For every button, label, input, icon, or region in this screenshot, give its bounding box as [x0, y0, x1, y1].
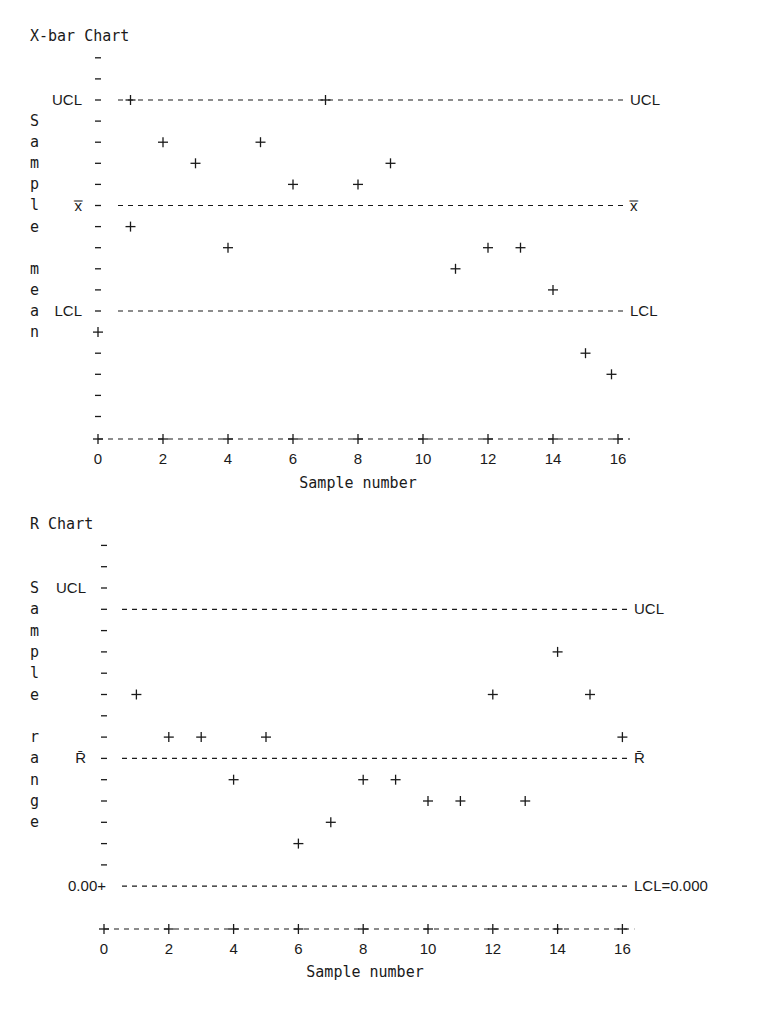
data-point	[293, 839, 303, 849]
svg-text:n: n	[30, 323, 39, 341]
svg-text:r: r	[30, 728, 39, 746]
right-label-lcl: LCL	[630, 302, 658, 319]
right-label-ucl: UCL	[630, 91, 660, 108]
left-label-ucl: UCL	[52, 91, 82, 108]
data-point	[196, 732, 206, 742]
data-point	[321, 95, 331, 105]
data-point	[358, 775, 368, 785]
r-x-axis-label: Sample number	[306, 963, 423, 981]
x-axis-tick	[353, 434, 363, 444]
right-label-center: x̿	[629, 197, 639, 214]
x-axis-tick	[617, 924, 627, 934]
xbar-y-axis-label: Samplemean	[30, 112, 39, 341]
data-point	[326, 817, 336, 827]
data-point	[386, 158, 396, 168]
left-label-lcl: LCL	[54, 302, 82, 319]
data-point	[131, 690, 141, 700]
x-axis-tick	[613, 434, 623, 444]
x-tick-label: 10	[420, 940, 437, 957]
data-point	[229, 775, 239, 785]
svg-text:g: g	[30, 792, 39, 810]
svg-text:S: S	[30, 112, 39, 130]
data-point	[483, 243, 493, 253]
svg-text:S: S	[30, 579, 39, 597]
svg-text:m: m	[30, 260, 39, 278]
data-point	[191, 158, 201, 168]
data-point	[261, 732, 271, 742]
x-axis-tick	[93, 434, 103, 444]
x-tick-label: 8	[354, 450, 362, 467]
x-axis-tick	[483, 434, 493, 444]
svg-text:e: e	[30, 218, 39, 236]
x-tick-label: 4	[229, 940, 237, 957]
svg-text:m: m	[30, 154, 39, 172]
x-axis-tick	[553, 924, 563, 934]
x-axis-tick	[223, 434, 233, 444]
svg-text:p: p	[30, 175, 39, 193]
r-chart-title: R Chart	[30, 515, 93, 533]
x-tick-label: 2	[159, 450, 167, 467]
data-point	[126, 222, 136, 232]
x-axis-tick	[158, 434, 168, 444]
x-tick-label: 16	[610, 450, 627, 467]
x-tick-label: 16	[614, 940, 631, 957]
x-tick-label: 6	[294, 940, 302, 957]
x-axis-tick	[288, 434, 298, 444]
left-label-center: R̄	[75, 749, 86, 766]
svg-text:a: a	[30, 600, 39, 618]
x-axis-tick	[229, 924, 239, 934]
left-label-lcl: 0.00+	[68, 877, 106, 894]
svg-text:a: a	[30, 302, 39, 320]
svg-text:e: e	[30, 813, 39, 831]
x-tick-label: 6	[289, 450, 297, 467]
r-chart: R Chart UCLUCLR̄R̄0.00+LCL=0.00002468101…	[30, 515, 708, 981]
data-point	[256, 137, 266, 147]
x-tick-label: 0	[100, 940, 108, 957]
x-axis-tick	[548, 434, 558, 444]
data-point	[617, 732, 627, 742]
data-point	[455, 796, 465, 806]
right-label-center: R̄	[634, 749, 645, 766]
data-point	[223, 243, 233, 253]
data-point	[520, 796, 530, 806]
x-axis-tick	[418, 434, 428, 444]
right-label-ucl: UCL	[634, 600, 664, 617]
svg-text:m: m	[30, 622, 39, 640]
data-point	[126, 95, 136, 105]
x-axis-tick	[293, 924, 303, 934]
data-point	[585, 690, 595, 700]
x-tick-label: 12	[484, 940, 501, 957]
data-point	[353, 179, 363, 189]
x-tick-label: 14	[549, 940, 566, 957]
svg-text:n: n	[30, 771, 39, 789]
data-point	[164, 732, 174, 742]
x-axis-tick	[99, 924, 109, 934]
data-point	[423, 796, 433, 806]
xbar-chart-title: X-bar Chart	[30, 27, 129, 45]
data-point	[607, 369, 617, 379]
left-label-center: x̿	[73, 197, 83, 214]
x-tick-label: 10	[415, 450, 432, 467]
data-point	[548, 285, 558, 295]
x-tick-label: 12	[480, 450, 497, 467]
svg-text:a: a	[30, 749, 39, 767]
control-charts: X-bar Chart UCLUCLx̿x̿LCLLCL024681012141…	[0, 0, 766, 1017]
r-y-axis-label: Samplerange	[30, 579, 39, 831]
data-point	[391, 775, 401, 785]
svg-text:e: e	[30, 686, 39, 704]
data-point	[516, 243, 526, 253]
x-tick-label: 2	[165, 940, 173, 957]
data-point	[93, 327, 103, 337]
xbar-chart: X-bar Chart UCLUCLx̿x̿LCLLCL024681012141…	[30, 27, 660, 492]
svg-text:p: p	[30, 643, 39, 661]
x-tick-label: 4	[224, 450, 232, 467]
x-tick-label: 0	[94, 450, 102, 467]
right-label-lcl: LCL=0.000	[634, 877, 708, 894]
x-tick-label: 8	[359, 940, 367, 957]
svg-text:e: e	[30, 281, 39, 299]
svg-text:l: l	[30, 664, 39, 682]
svg-text:a: a	[30, 133, 39, 151]
x-axis-tick	[488, 924, 498, 934]
data-point	[451, 264, 461, 274]
svg-text:l: l	[30, 196, 39, 214]
